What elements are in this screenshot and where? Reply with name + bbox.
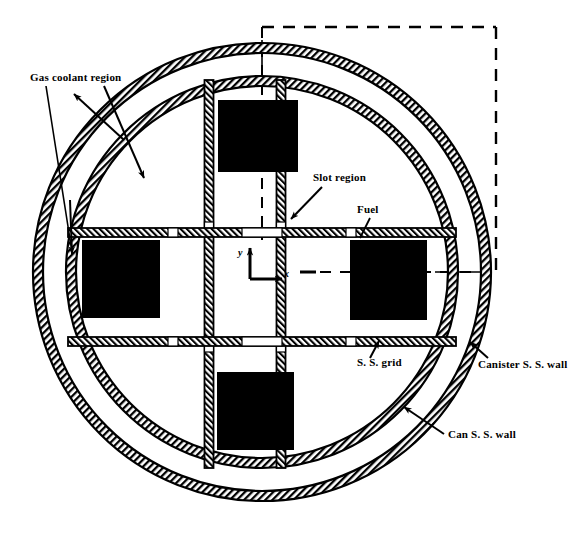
- fuel-square-right: [350, 240, 427, 320]
- label-ss-grid: S. S. grid: [357, 356, 402, 368]
- fuel-square-bottom: [217, 372, 294, 450]
- axis-label-x: x: [283, 268, 289, 279]
- fuel-square-left: [82, 240, 160, 318]
- label-gas-coolant-region: Gas coolant region: [30, 71, 121, 83]
- label-canister-ss-wall: Canister S. S. wall: [478, 358, 567, 370]
- canister-cross-section-diagram: y x Gas coolant region Slot region Fuel …: [0, 0, 574, 536]
- label-fuel: Fuel: [357, 203, 379, 215]
- grid-bar-horizontal-top: [68, 228, 456, 237]
- grid-bar-horizontal-bottom: [68, 337, 456, 346]
- figure-canvas: y x Gas coolant region Slot region Fuel …: [0, 0, 574, 536]
- label-can-ss-wall: Can S. S. wall: [448, 428, 516, 440]
- grid-bar-vertical-left: [205, 80, 214, 468]
- axis-label-y: y: [237, 247, 243, 258]
- label-slot-region: Slot region: [313, 171, 366, 183]
- fuel-square-top: [218, 100, 298, 172]
